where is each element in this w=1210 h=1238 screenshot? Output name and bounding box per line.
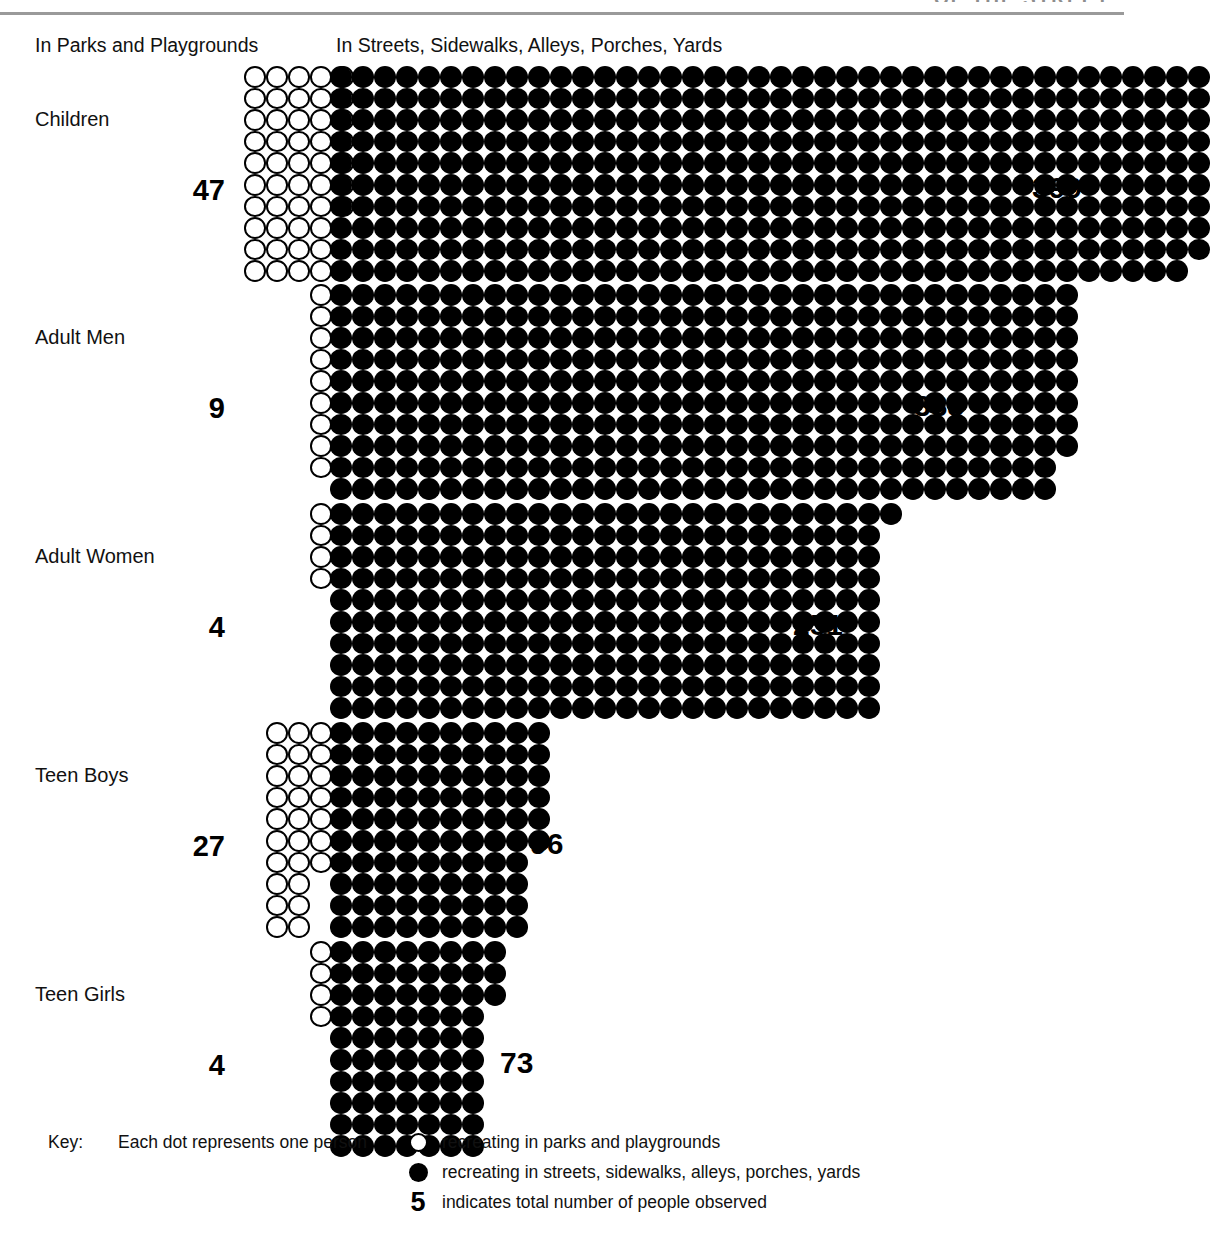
filled-dot <box>902 66 924 88</box>
group-teen-girls: Teen Girls 4 73 <box>0 941 1124 1156</box>
filled-dot <box>638 589 660 611</box>
filled-dot <box>748 306 770 328</box>
filled-dot <box>550 131 572 153</box>
filled-dot <box>770 196 792 218</box>
filled-dot <box>462 1006 484 1028</box>
filled-dot <box>418 787 440 809</box>
filled-dot <box>638 370 660 392</box>
filled-dot <box>330 131 352 153</box>
filled-dot <box>638 654 660 676</box>
filled-dot <box>748 503 770 525</box>
filled-dot <box>902 174 924 196</box>
filled-dot <box>572 457 594 479</box>
filled-dot <box>836 414 858 436</box>
filled-dot <box>528 306 550 328</box>
open-circle-dot <box>244 239 266 261</box>
filled-dot <box>374 941 396 963</box>
open-circle-dot <box>244 131 266 153</box>
dot-spacer <box>880 589 902 611</box>
filled-dot <box>616 370 638 392</box>
filled-dot <box>506 873 528 895</box>
filled-dot <box>440 808 462 830</box>
dot-row <box>310 1049 332 1071</box>
filled-dot <box>330 873 352 895</box>
filled-dot <box>594 131 616 153</box>
open-circle-dot <box>310 217 332 239</box>
filled-dot <box>770 697 792 719</box>
open-circle-dot <box>310 435 332 457</box>
filled-dot <box>550 697 572 719</box>
filled-dot <box>660 697 682 719</box>
filled-dot <box>682 457 704 479</box>
filled-dot <box>440 654 462 676</box>
filled-dot <box>770 568 792 590</box>
filled-dot <box>330 633 352 655</box>
filled-dot <box>814 676 836 698</box>
column-header-parks: In Parks and Playgrounds <box>35 34 258 57</box>
filled-dot <box>374 963 396 985</box>
dot-spacer <box>310 654 332 676</box>
filled-dot <box>374 1071 396 1093</box>
filled-dot <box>1012 327 1034 349</box>
filled-dot <box>396 765 418 787</box>
filled-dot <box>506 435 528 457</box>
filled-dot <box>374 765 396 787</box>
filled-dot <box>770 152 792 174</box>
filled-dot <box>660 306 682 328</box>
filled-dot <box>484 852 506 874</box>
dot-row <box>330 654 902 676</box>
filled-dot <box>704 503 726 525</box>
filled-dot <box>440 611 462 633</box>
filled-dot <box>506 808 528 830</box>
filled-dot <box>462 611 484 633</box>
filled-dot <box>462 1092 484 1114</box>
filled-dot <box>770 327 792 349</box>
filled-dot <box>770 654 792 676</box>
dot-row <box>266 722 332 744</box>
filled-dot <box>528 66 550 88</box>
filled-dot <box>374 722 396 744</box>
filled-dot <box>1012 174 1034 196</box>
filled-dot <box>858 260 880 282</box>
filled-dot <box>880 88 902 110</box>
filled-dot <box>462 457 484 479</box>
filled-dot <box>968 306 990 328</box>
filled-dot <box>616 525 638 547</box>
filled-dot <box>638 349 660 371</box>
filled-dot <box>374 1135 396 1157</box>
filled-dot <box>440 568 462 590</box>
key-title: Key: <box>48 1132 83 1153</box>
filled-dot <box>396 284 418 306</box>
filled-dot <box>528 174 550 196</box>
filled-dot <box>616 546 638 568</box>
filled-dot <box>396 654 418 676</box>
filled-dot <box>550 88 572 110</box>
filled-dot <box>330 589 352 611</box>
filled-dot <box>880 392 902 414</box>
filled-dot <box>792 435 814 457</box>
filled-dot <box>572 478 594 500</box>
filled-dot <box>484 392 506 414</box>
filled-dot <box>1056 131 1078 153</box>
filled-dot <box>506 654 528 676</box>
open-circle-dot <box>288 66 310 88</box>
filled-dot <box>858 435 880 457</box>
filled-dot <box>374 568 396 590</box>
filled-dot <box>836 370 858 392</box>
filled-dot <box>836 284 858 306</box>
filled-dot <box>682 109 704 131</box>
filled-dot <box>1188 217 1210 239</box>
dot-row <box>310 525 332 547</box>
filled-dot <box>616 217 638 239</box>
filled-dot <box>396 327 418 349</box>
filled-dot <box>704 284 726 306</box>
filled-dot <box>418 239 440 261</box>
filled-dot <box>770 589 792 611</box>
filled-dot <box>1056 327 1078 349</box>
filled-dot <box>440 284 462 306</box>
filled-dot <box>528 196 550 218</box>
filled-dot <box>990 174 1012 196</box>
filled-dot <box>880 196 902 218</box>
filled-dot <box>462 217 484 239</box>
open-circle-dot <box>310 239 332 261</box>
